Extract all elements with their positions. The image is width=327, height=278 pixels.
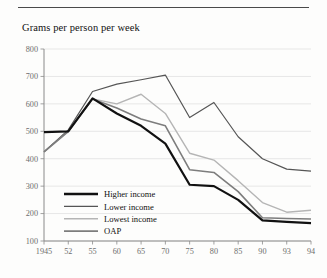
x-axis-tick-label: 60 bbox=[113, 247, 121, 256]
y-axis-tick-label: 700 bbox=[26, 72, 38, 81]
x-axis-tick-label: 55 bbox=[88, 247, 96, 256]
x-axis-tick-label: 65 bbox=[137, 247, 145, 256]
gridlines-group bbox=[44, 49, 311, 241]
legend-label-higher-income: Higher income bbox=[104, 189, 155, 199]
y-axis-tick-label: 400 bbox=[26, 155, 38, 164]
legend-label-oap: OAP bbox=[104, 226, 121, 236]
x-axis-tick-label: 75 bbox=[186, 247, 194, 256]
x-axis-tick-label: 70 bbox=[161, 247, 169, 256]
legend-label-lower-income: Lower income bbox=[104, 202, 154, 212]
y-axis-tick-label: 800 bbox=[26, 45, 38, 54]
y-axis-tick-label: 100 bbox=[26, 237, 38, 246]
x-axis-tick-label: 90 bbox=[258, 247, 266, 256]
figure-container: Grams per person per week 10020030040050… bbox=[0, 0, 327, 278]
y-axis-labels-group: 100200300400500600700800 bbox=[26, 45, 38, 246]
chart-legend: Higher incomeLower incomeLowest incomeOA… bbox=[64, 189, 157, 236]
x-axis-labels-group: 19455255606570758085909394 bbox=[36, 247, 315, 256]
y-axis-tick-label: 200 bbox=[26, 209, 38, 218]
data-series-group bbox=[44, 75, 311, 223]
line-chart-plot: 100200300400500600700800 194552556065707… bbox=[0, 0, 327, 278]
x-axis-tick-label: 52 bbox=[64, 247, 72, 256]
x-axis-tick-label: 80 bbox=[210, 247, 218, 256]
x-axis-tick-label: 85 bbox=[234, 247, 242, 256]
y-axis-tick-label: 500 bbox=[26, 127, 38, 136]
series-line-higher-income bbox=[44, 98, 311, 223]
x-axis-tick-label: 94 bbox=[307, 247, 315, 256]
x-axis-tick-label: 1945 bbox=[36, 247, 52, 256]
y-axis-tick-label: 300 bbox=[26, 182, 38, 191]
series-line-lower-income bbox=[44, 75, 311, 171]
x-axis-tick-label: 93 bbox=[283, 247, 291, 256]
y-axis-tick-label: 600 bbox=[26, 100, 38, 109]
x-axis-ticks-group bbox=[44, 241, 311, 245]
legend-label-lowest-income: Lowest income bbox=[104, 214, 157, 224]
y-axis-ticks-group bbox=[41, 49, 45, 241]
